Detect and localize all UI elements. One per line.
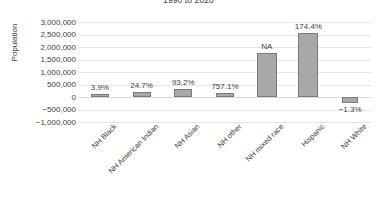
bar[interactable] [91, 94, 109, 97]
y-tick-label: 1,000,000 [14, 68, 76, 77]
y-tick-label: 1,500,000 [14, 55, 76, 64]
x-axis-category-labels: NH BlackNH American IndianNH AsianNH oth… [79, 122, 371, 206]
bar-data-label: 757.1% [211, 82, 238, 91]
chart-container: 1990 to 2020 Population 3,000,0002,500,0… [0, 0, 377, 206]
bar-data-label: NA [261, 42, 272, 51]
bar-data-label: 174.4% [295, 22, 322, 31]
y-tick-label: 2,500,000 [14, 30, 76, 39]
y-tick-label: 500,000 [14, 80, 76, 89]
x-category-label-text: NH other [216, 122, 244, 150]
y-tick-label: 0 [14, 93, 76, 102]
x-category-label-text: Hispanic [300, 122, 327, 149]
y-axis-tick-labels: 3,000,0002,500,0002,000,0001,500,0001,00… [14, 0, 76, 206]
bar[interactable] [133, 92, 151, 97]
bar[interactable] [342, 97, 358, 103]
y-tick-label: 3,000,000 [14, 18, 76, 27]
bar-data-label: 24.7% [130, 81, 153, 90]
bar[interactable] [257, 53, 277, 97]
bar-data-label: 3.9% [91, 83, 109, 92]
y-tick-label: −1,000,000 [14, 118, 76, 127]
plot-area: 3.9%24.7%93.2%757.1%NA174.4%−1.3% [79, 22, 371, 122]
x-category-label-text: NH mixed race [244, 122, 285, 163]
x-category-label-text: NH Black [90, 122, 118, 150]
x-category-label-text: NH Asian [173, 122, 201, 150]
bar-slot: 3.9% [79, 22, 121, 122]
bar[interactable] [216, 93, 234, 97]
y-tick-label: −500,000 [14, 105, 76, 114]
x-category-label-text: NH White [339, 122, 368, 151]
y-tick-label: 2,000,000 [14, 43, 76, 52]
